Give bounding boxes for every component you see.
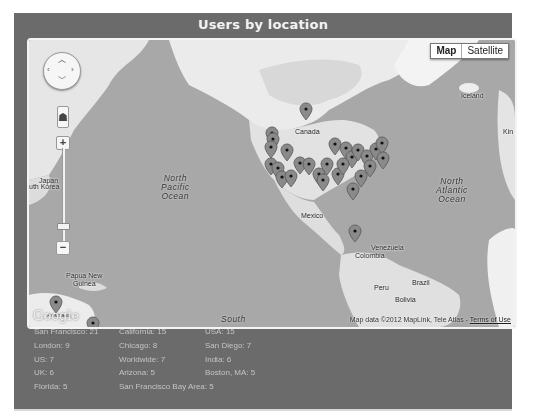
stat-item: San Francisco Bay Area: 5 — [119, 382, 214, 391]
label-canada: Canada — [295, 128, 320, 135]
label-venezuela: Venezuela — [371, 244, 404, 251]
stat-item: Arizona: 5 — [119, 368, 155, 377]
zoom-out-button[interactable]: − — [56, 241, 70, 255]
label-iceland: Iceland — [461, 92, 484, 99]
map-view[interactable]: Canada Iceland Kin Japan uth Korea Mexic… — [27, 38, 517, 329]
label-south-korea: uth Korea — [29, 183, 59, 190]
chevron-right-icon[interactable]: › — [71, 66, 74, 74]
chevron-up-icon[interactable]: ︿ — [58, 56, 66, 64]
map-attribution: Map data ©2012 MapLink, Tele Atlas - Ter… — [350, 316, 511, 323]
stat-item: Boston, MA: 5 — [205, 368, 255, 377]
label-kin: Kin — [503, 128, 513, 135]
label-mexico: Mexico — [301, 212, 323, 219]
pan-control[interactable]: ︿ ‹ › ﹀ — [43, 52, 81, 90]
chevron-down-icon[interactable]: ﹀ — [58, 77, 66, 85]
users-by-location-panel: Users by location — [14, 13, 512, 411]
terms-of-use-link[interactable]: Terms of Use — [470, 316, 511, 323]
stat-item: US: 7 — [34, 355, 54, 364]
stat-item: Worldwide: 7 — [119, 355, 165, 364]
ocean-north-pacific: North Pacific Ocean — [161, 174, 190, 201]
street-view-pegman-icon[interactable]: ☗ — [57, 106, 69, 128]
chevron-left-icon[interactable]: ‹ — [47, 66, 50, 74]
stat-item: USA: 15 — [205, 327, 235, 336]
stat-item: San Diego: 7 — [205, 341, 251, 350]
stat-item: London: 9 — [34, 341, 70, 350]
google-logo[interactable]: Google — [33, 308, 79, 323]
label-peru: Peru — [374, 284, 389, 291]
label-colombia: Colombia — [355, 252, 385, 259]
label-bolivia: Bolivia — [395, 296, 416, 303]
stat-item: California: 15 — [119, 327, 166, 336]
stat-item: Chicago: 8 — [119, 341, 157, 350]
zoom-slider-thumb[interactable] — [57, 223, 70, 230]
stat-item: Florida: 5 — [34, 382, 67, 391]
panel-title: Users by location — [14, 13, 512, 37]
stat-item: UK: 6 — [34, 368, 54, 377]
label-brazil: Brazil — [412, 279, 430, 286]
label-papua-new-guinea-1: Papua New — [66, 272, 102, 279]
label-south: South — [221, 315, 246, 324]
stat-item: India: 6 — [205, 355, 231, 364]
ocean-north-atlantic: North Atlantic Ocean — [436, 177, 468, 204]
map-type-control: Map Satellite — [430, 43, 509, 59]
label-papua-new-guinea-2: Guinea — [73, 280, 96, 287]
map-type-satellite-button[interactable]: Satellite — [462, 44, 508, 58]
stat-item: San Francisco: 21 — [34, 327, 98, 336]
map-type-map-button[interactable]: Map — [431, 44, 462, 58]
